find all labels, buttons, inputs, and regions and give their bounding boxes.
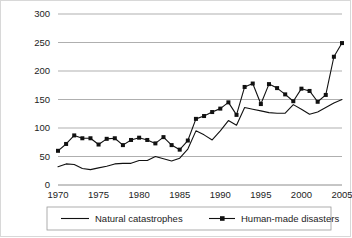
data-point-marker (194, 117, 198, 121)
x-axis-labels: 19701975198019851990199520002005 (47, 189, 352, 200)
y-tick-label-150: 150 (34, 94, 50, 105)
data-point-marker (80, 136, 84, 140)
chart-legend: Natural catastrophesHuman-made disasters (47, 207, 339, 230)
data-point-marker (72, 133, 76, 137)
x-tick-label-2005: 2005 (331, 189, 352, 200)
data-point-marker (340, 41, 344, 45)
y-tick-label-50: 50 (39, 151, 50, 162)
data-point-marker (316, 100, 320, 104)
data-point-marker (235, 113, 239, 117)
data-point-marker (153, 141, 157, 145)
data-point-marker (267, 82, 271, 86)
data-point-marker (210, 110, 214, 114)
x-tick-label-2000: 2000 (291, 189, 312, 200)
data-point-marker (283, 92, 287, 96)
x-tick-label-1970: 1970 (47, 189, 68, 200)
series-line-natural-catastrophes (58, 100, 342, 170)
y-tick-label-200: 200 (34, 65, 50, 76)
data-point-marker (202, 114, 206, 118)
y-tick-label-300: 300 (34, 8, 50, 19)
data-point-marker (145, 138, 149, 142)
data-point-marker (324, 93, 328, 97)
x-tick-label-1975: 1975 (88, 189, 109, 200)
data-point-marker (161, 135, 165, 139)
data-point-marker (275, 86, 279, 90)
data-point-marker (259, 102, 263, 106)
series-markers-human-made-disasters (56, 41, 344, 153)
data-point-marker (56, 149, 60, 153)
data-point-marker (113, 136, 117, 140)
gridlines: 050100150200250300 (34, 8, 342, 190)
data-point-marker (291, 99, 295, 103)
data-point-marker (129, 138, 133, 142)
x-tick-label-1990: 1990 (210, 189, 231, 200)
data-point-marker (243, 85, 247, 89)
data-point-marker (97, 143, 101, 147)
data-point-marker (88, 136, 92, 140)
series-line-human-made-disasters (58, 43, 342, 151)
line-chart: 0501001502002503001970197519801985199019… (1, 1, 352, 238)
x-tick-label-1995: 1995 (250, 189, 271, 200)
data-point-marker (121, 143, 125, 147)
x-tick-label-1980: 1980 (129, 189, 150, 200)
data-point-marker (218, 107, 222, 111)
data-point-marker (170, 143, 174, 147)
series-group (56, 41, 344, 170)
data-point-marker (137, 136, 141, 140)
legend-swatch-marker-human-made-disasters (220, 216, 225, 221)
data-point-marker (299, 87, 303, 91)
y-tick-label-100: 100 (34, 122, 50, 133)
data-point-marker (105, 137, 109, 141)
data-point-marker (186, 139, 190, 143)
legend-label-natural-catastrophes: Natural catastrophes (95, 213, 183, 224)
x-tick-label-1985: 1985 (169, 189, 190, 200)
data-point-marker (308, 89, 312, 93)
data-point-marker (226, 100, 230, 104)
legend-label-human-made-disasters: Human-made disasters (241, 213, 339, 224)
y-tick-label-250: 250 (34, 37, 50, 48)
data-point-marker (251, 82, 255, 86)
data-point-marker (332, 55, 336, 59)
data-point-marker (178, 148, 182, 152)
data-point-marker (64, 142, 68, 146)
